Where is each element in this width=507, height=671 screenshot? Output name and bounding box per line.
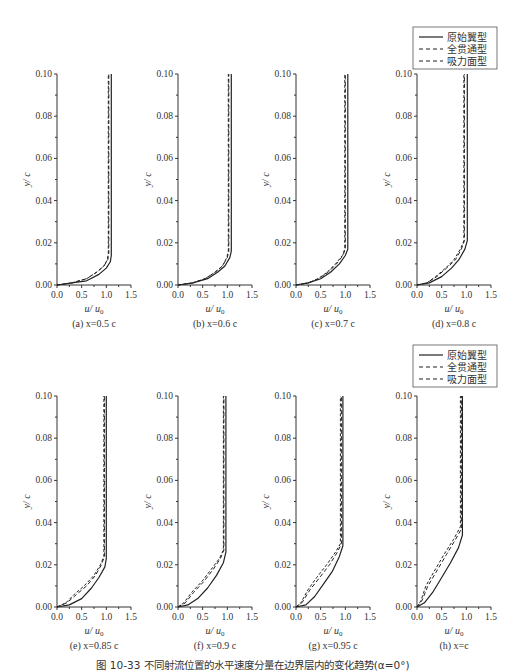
x-tick-label: 1.5	[125, 290, 137, 300]
x-tick-label: 1.5	[125, 612, 137, 622]
subplot-caption: (e) x=0.85 c	[70, 640, 119, 652]
x-tick-label: 0.5	[315, 290, 327, 300]
y-tick-label: 0.00	[156, 602, 173, 612]
y-tick-label: 0.08	[395, 111, 412, 121]
x-axis-title: u/ u0	[324, 303, 343, 316]
x-tick-label: 0.5	[315, 612, 327, 622]
legend-label: 全贯通型	[447, 361, 487, 373]
x-tick-label: 0.0	[411, 290, 423, 300]
y-axis-title: y/ c	[381, 172, 392, 188]
series-line-2	[296, 74, 345, 285]
y-tick-label: 0.10	[395, 69, 412, 79]
y-tick-label: 0.06	[274, 475, 291, 485]
y-axis-title: y/ c	[21, 494, 32, 510]
y-tick-label: 0.02	[35, 238, 52, 248]
x-tick-label: 0.5	[76, 612, 88, 622]
figure-canvas: 0.000.020.040.060.080.100.00.51.01.5y/ c…	[0, 0, 507, 671]
series-line-2	[178, 74, 228, 285]
x-axis-title: u/ u0	[445, 625, 464, 638]
subplot-caption: (h) x=c	[439, 640, 469, 652]
x-tick-label: 1.0	[100, 612, 112, 622]
series-line-2	[57, 396, 104, 607]
legend-label: 原始翼型	[447, 349, 487, 361]
series-line-2	[57, 74, 108, 285]
x-tick-label: 1.0	[221, 290, 233, 300]
y-axis-title: y/ c	[142, 172, 153, 188]
x-tick-label: 1.5	[364, 290, 376, 300]
legend-label: 全贯通型	[447, 43, 487, 55]
series-line-0	[417, 74, 467, 285]
x-tick-label: 0.0	[290, 290, 302, 300]
y-tick-label: 0.02	[156, 560, 173, 570]
y-tick-label: 0.10	[35, 391, 52, 401]
y-tick-label: 0.10	[156, 69, 173, 79]
x-tick-label: 0.5	[436, 290, 448, 300]
series-line-1	[417, 74, 464, 285]
y-tick-label: 0.06	[156, 475, 173, 485]
y-tick-label: 0.00	[156, 280, 173, 290]
y-tick-label: 0.08	[156, 433, 173, 443]
y-tick-label: 0.04	[395, 196, 412, 206]
x-axis-title: u/ u0	[85, 625, 104, 638]
x-tick-label: 0.5	[197, 612, 209, 622]
y-tick-label: 0.02	[274, 238, 291, 248]
x-tick-label: 0.0	[51, 290, 63, 300]
series-line-0	[57, 396, 106, 607]
series-line-0	[417, 396, 462, 607]
subplot-caption: (d) x=0.8 c	[432, 318, 477, 330]
y-tick-label: 0.00	[395, 602, 412, 612]
y-tick-label: 0.00	[35, 602, 52, 612]
x-tick-label: 1.5	[364, 612, 376, 622]
x-axis-title: u/ u0	[85, 303, 104, 316]
legend: 原始翼型全贯通型吸力面型	[413, 345, 497, 387]
series-line-2	[296, 396, 340, 607]
y-tick-label: 0.04	[35, 196, 52, 206]
x-tick-label: 0.0	[411, 612, 423, 622]
subplot-g: 0.000.020.040.060.080.100.00.51.01.5y/ c…	[260, 391, 376, 652]
y-tick-label: 0.08	[156, 111, 173, 121]
y-tick-label: 0.06	[35, 153, 52, 163]
x-axis-title: u/ u0	[206, 303, 225, 316]
x-tick-label: 0.5	[76, 290, 88, 300]
y-tick-label: 0.02	[274, 560, 291, 570]
x-tick-label: 0.0	[290, 612, 302, 622]
legend-label: 原始翼型	[447, 31, 487, 43]
y-tick-label: 0.06	[395, 153, 412, 163]
series-line-1	[57, 396, 104, 607]
subplot-caption: (c) x=0.7 c	[311, 318, 355, 330]
series-line-1	[296, 396, 341, 607]
x-axis-title: u/ u0	[206, 625, 225, 638]
y-tick-label: 0.10	[274, 69, 291, 79]
x-tick-label: 0.0	[172, 612, 184, 622]
y-axis-title: y/ c	[260, 172, 271, 188]
y-tick-label: 0.02	[395, 560, 412, 570]
series-line-2	[417, 74, 464, 285]
y-tick-label: 0.10	[35, 69, 52, 79]
subplot-b: 0.000.020.040.060.080.100.00.51.01.5y/ c…	[142, 69, 258, 330]
y-tick-label: 0.00	[274, 602, 291, 612]
subplot-d: 0.000.020.040.060.080.100.00.51.01.5y/ c…	[381, 69, 497, 330]
y-tick-label: 0.10	[274, 391, 291, 401]
series-line-0	[296, 396, 343, 607]
y-tick-label: 0.00	[274, 280, 291, 290]
y-tick-label: 0.06	[395, 475, 412, 485]
subplot-caption: (b) x=0.6 c	[193, 318, 238, 330]
y-axis-title: y/ c	[21, 172, 32, 188]
x-tick-label: 0.0	[172, 290, 184, 300]
y-axis-title: y/ c	[260, 494, 271, 510]
y-tick-label: 0.02	[156, 238, 173, 248]
x-axis-title: u/ u0	[324, 625, 343, 638]
y-tick-label: 0.04	[395, 518, 412, 528]
x-tick-label: 1.0	[460, 290, 472, 300]
series-line-1	[417, 396, 461, 607]
y-tick-label: 0.06	[156, 153, 173, 163]
y-tick-label: 0.08	[35, 433, 52, 443]
y-tick-label: 0.08	[35, 111, 52, 121]
y-tick-label: 0.02	[35, 560, 52, 570]
y-tick-label: 0.04	[156, 518, 173, 528]
y-tick-label: 0.00	[395, 280, 412, 290]
figure-caption: 图 10-33 不同射流位置的水平速度分量在边界层内的变化趋势(α=0°)	[96, 659, 409, 671]
legend-label: 吸力面型	[447, 373, 487, 385]
y-tick-label: 0.08	[274, 111, 291, 121]
y-tick-label: 0.08	[274, 433, 291, 443]
